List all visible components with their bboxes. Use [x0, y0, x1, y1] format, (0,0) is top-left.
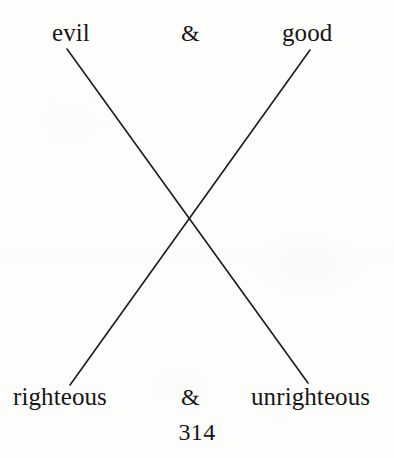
label-unrighteous: unrighteous	[251, 384, 370, 409]
ampersand-top: &	[181, 21, 200, 45]
label-righteous: righteous	[13, 384, 107, 409]
ampersand-bottom: &	[181, 385, 200, 409]
line-evil-to-unrighteous	[67, 49, 308, 383]
page-number: 314	[0, 420, 394, 444]
label-evil: evil	[52, 20, 90, 45]
book-page: evil & good righteous & unrighteous 314	[0, 0, 394, 458]
label-good: good	[282, 20, 332, 45]
